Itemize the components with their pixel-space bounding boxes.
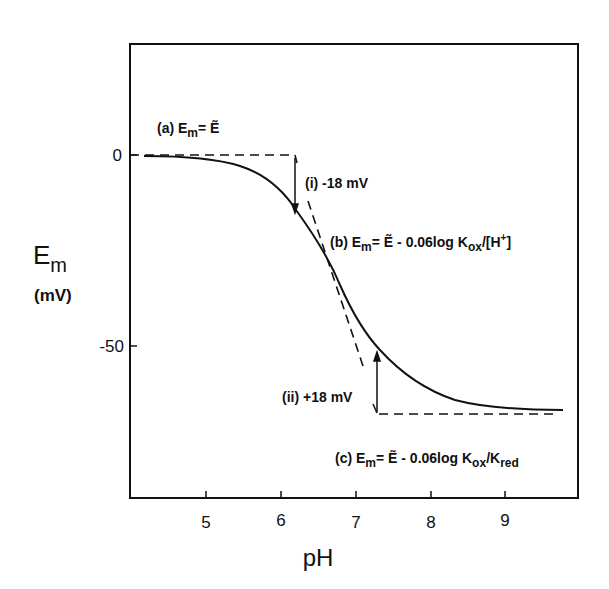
annotation-b-prefix: (b) E <box>330 234 361 250</box>
annotation-c-prefix: (c) E <box>335 450 365 466</box>
y-tick-label: -50 <box>99 337 124 356</box>
annotation-c-sub2: ox <box>472 456 486 470</box>
annotation-c-sub: m <box>365 456 376 470</box>
x-tick-label: 6 <box>276 511 285 530</box>
y-tick-label: 0 <box>113 146 122 165</box>
y-axis-unit: (mV) <box>34 286 72 305</box>
x-axis-title: pH <box>303 544 334 571</box>
annotation-b: (b) Em= Ẽ - 0.06log Kox/[H+] <box>330 232 511 254</box>
x-tick-label: 7 <box>351 513 360 532</box>
x-tick-label: 8 <box>426 513 435 532</box>
annotation-c: (c) Em= Ẽ - 0.06log Kox/Kred <box>335 449 519 470</box>
annotation-a-rest: = Ẽ <box>198 119 219 136</box>
annotation-ii: (ii) +18 mV <box>282 389 353 405</box>
x-tick-label: 5 <box>201 513 210 532</box>
annotation-a-sub: m <box>187 126 198 140</box>
chart: 5 6 7 8 9 0 -50 pH Em (mV) (i) -18 mV (i… <box>0 0 609 589</box>
y-axis-title-sub: m <box>50 254 67 276</box>
x-tick-label: 9 <box>500 511 509 530</box>
annotation-c-sub3: red <box>500 456 519 470</box>
x-axis-tick-labels: 5 6 7 8 9 <box>201 511 509 532</box>
annotation-b-sub2: ox <box>468 240 482 254</box>
annotation-c-mid2: /K <box>486 450 500 466</box>
slope-line-b-dashed <box>308 201 363 366</box>
y-axis-title: Em <box>33 240 67 276</box>
y-axis-ticks <box>130 155 137 346</box>
plot-frame <box>130 44 578 498</box>
annotation-b-sub: m <box>361 240 372 254</box>
x-axis-ticks <box>206 491 505 498</box>
annotation-i: (i) -18 mV <box>305 175 369 191</box>
annotation-a-prefix: (a) E <box>157 120 187 136</box>
arrow-ii <box>373 352 380 413</box>
arrow-i <box>292 155 298 213</box>
annotation-c-mid: = Ẽ - 0.06log K <box>376 449 472 466</box>
em-ph-curve <box>144 156 563 410</box>
annotation-b-end: ] <box>506 234 511 250</box>
y-axis-title-main: E <box>33 240 50 270</box>
annotation-b-mid: = Ẽ - 0.06log K <box>372 233 468 250</box>
annotation-a: (a) Em= Ẽ <box>157 119 219 140</box>
annotation-b-rest: /[H <box>482 234 501 250</box>
